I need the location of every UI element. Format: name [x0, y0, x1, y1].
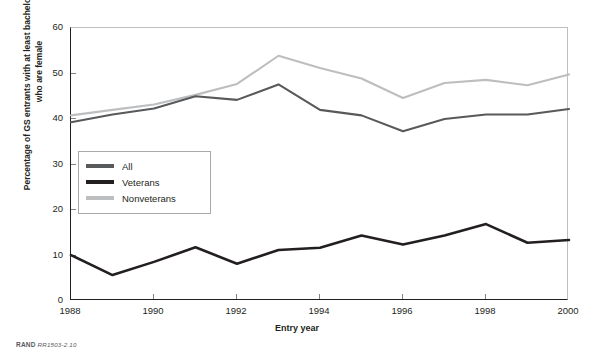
x-tick-label: 1996: [377, 305, 427, 316]
y-tick-label: 10: [29, 249, 63, 260]
chart-legend: All Veterans Nonveterans: [78, 151, 211, 214]
legend-item-nonveterans[interactable]: Nonveterans: [86, 190, 203, 206]
series-line-nonveterans: [71, 56, 569, 116]
legend-item-all[interactable]: All: [86, 158, 203, 174]
figure-credit: RAND RR1503-2.10: [16, 341, 77, 348]
legend-label-nonveterans: Nonveterans: [122, 193, 176, 204]
y-tick-label: 40: [29, 112, 63, 123]
y-tick-label: 30: [29, 158, 63, 169]
x-tick-label: 1998: [460, 305, 510, 316]
series-line-all: [71, 84, 569, 131]
legend-label-veterans: Veterans: [122, 177, 160, 188]
x-tick-label: 2000: [543, 305, 593, 316]
legend-swatch-veterans: [86, 180, 114, 183]
x-tick-label: 1990: [128, 305, 178, 316]
credit-id: RR1503-2.10: [38, 341, 77, 348]
y-tick-label: 50: [29, 67, 63, 78]
legend-swatch-nonveterans: [86, 196, 114, 199]
x-tick-label: 1992: [211, 305, 261, 316]
y-tick-label: 60: [29, 21, 63, 32]
legend-item-veterans[interactable]: Veterans: [86, 174, 203, 190]
y-tick-label: 0: [29, 294, 63, 305]
credit-brand: RAND: [16, 341, 36, 348]
x-tick-label: 1988: [45, 305, 95, 316]
x-tick-label: 1994: [294, 305, 344, 316]
legend-label-all: All: [122, 161, 133, 172]
series-line-veterans: [71, 224, 569, 275]
x-axis-title: Entry year: [0, 323, 594, 333]
chart-figure: Percentage of GS entrants with at least …: [0, 0, 594, 362]
legend-swatch-all: [86, 164, 114, 167]
y-tick-label: 20: [29, 203, 63, 214]
